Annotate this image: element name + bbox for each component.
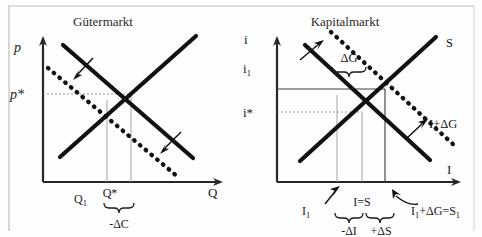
right-curve-label-idg: I+ΔG <box>429 117 457 131</box>
right-curve-label-s: S <box>446 36 453 50</box>
right-x-axis-label: I <box>447 162 451 177</box>
right-shift-label-delta-g: ΔG <box>340 51 357 65</box>
left-tick-qstar: Q* <box>103 186 118 200</box>
economics-figure: Gütermarkt p p* Q Q1 Q* -ΔC <box>0 0 482 237</box>
right-brace-label-delta-i: -ΔI <box>341 224 357 237</box>
left-y-tick-label-pstar: p* <box>9 87 24 102</box>
right-tick-is: I=S <box>353 195 370 209</box>
right-y-tick-istar: i* <box>243 105 253 120</box>
figure-canvas: Gütermarkt p p* Q Q1 Q* -ΔC <box>0 0 482 237</box>
right-panel-title: Kapitalmarkt <box>311 14 380 29</box>
left-x-axis-label: Q <box>208 185 218 200</box>
left-panel-title: Gütermarkt <box>73 14 133 29</box>
right-y-axis-label: i <box>244 32 248 47</box>
left-brace-label-delta-c: -ΔC <box>109 217 129 231</box>
figure-background <box>0 0 482 237</box>
right-tick-new-equilibrium: I1+ΔG=S1 <box>411 204 460 220</box>
left-y-axis-label: p <box>13 40 21 55</box>
right-brace-label-delta-s: +ΔS <box>370 224 391 237</box>
